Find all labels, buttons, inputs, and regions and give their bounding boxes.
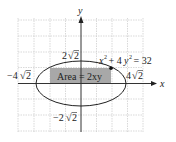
svg-text:−4: −4 (7, 70, 18, 81)
x-axis-arrow-icon (151, 81, 157, 86)
svg-text:+ 4: + 4 (106, 55, 122, 66)
svg-text:2: 2 (72, 112, 77, 123)
label-top-intercept: 2 √ 2 (62, 50, 79, 61)
ellipse-diagram: y x 2 √ 2 −2 √ 2 −4 √ 2 4 √ 2 x 2 + 4 y … (0, 0, 176, 142)
x-axis-label: x (159, 78, 165, 89)
label-left-intercept: −4 √ 2 (7, 70, 31, 81)
svg-text:2: 2 (62, 50, 67, 61)
svg-text:2: 2 (74, 50, 79, 61)
label-bottom-intercept: −2 √ 2 (53, 112, 77, 123)
svg-text:2: 2 (26, 70, 31, 81)
ellipse-equation: x 2 + 4 y 2 = 32 (98, 54, 152, 66)
corner-point (109, 67, 113, 71)
svg-text:2: 2 (138, 70, 143, 81)
y-axis-arrow-icon (79, 16, 84, 23)
area-label: Area = 2xy (57, 71, 102, 82)
svg-text:= 32: = 32 (131, 55, 152, 66)
svg-text:4: 4 (126, 70, 131, 81)
label-right-intercept: 4 √ 2 (126, 70, 143, 81)
svg-text:−2: −2 (53, 112, 64, 123)
y-axis-label: y (77, 5, 83, 16)
